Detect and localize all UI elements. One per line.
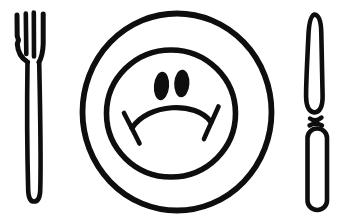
- fork-tine-outer-right: [39, 14, 43, 62]
- knife-blade: [306, 15, 323, 113]
- page-background: { "colors": { "ink": "#0e0e0e", "backgro…: [0, 0, 337, 224]
- mouth-frown-arc: [132, 108, 211, 128]
- plate-outer-rim: [83, 14, 272, 211]
- fork-icon: [17, 13, 43, 202]
- fork-handle: [27, 62, 40, 202]
- right-eye-icon: [173, 69, 190, 97]
- knife-bolster-top-mark: [310, 118, 322, 121]
- knife-icon: [306, 15, 327, 211]
- fork-tine-mid-left: [26, 14, 27, 55]
- drawing-svg: [0, 0, 337, 224]
- frown-mouth: [124, 107, 219, 144]
- plate-icon: [83, 14, 272, 211]
- eyes: [153, 69, 190, 100]
- knife-handle: [308, 129, 328, 211]
- left-eye-icon: [153, 71, 171, 101]
- mouth-left-tick: [124, 113, 140, 144]
- knife-bolster-bottom-mark: [310, 124, 323, 126]
- mouth-right-tick: [204, 107, 219, 140]
- place-setting-drawing: [0, 0, 337, 224]
- sad-face-icon: [124, 69, 219, 143]
